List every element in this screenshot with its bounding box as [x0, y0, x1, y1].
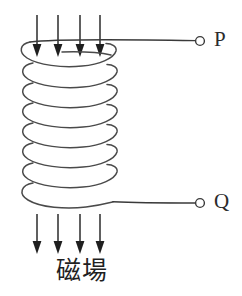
- field-arrow-down: [76, 15, 85, 57]
- terminal-q-circle-icon[interactable]: [196, 199, 205, 208]
- magnetic-field-label: 磁場: [56, 258, 108, 283]
- physics-figure: P Q 磁場: [0, 0, 242, 296]
- coil-turn: [23, 83, 117, 108]
- coil-field-diagram: [0, 0, 242, 296]
- coil-turn: [23, 123, 117, 148]
- coil-turn: [23, 143, 117, 168]
- bottom-field-arrows-group: [33, 214, 105, 254]
- lead-wire-top: [30, 40, 196, 42]
- coil-turn: [23, 103, 117, 128]
- solenoid-coil: [21, 42, 117, 208]
- terminal-q-label: Q: [214, 191, 229, 212]
- field-arrow-down: [96, 214, 105, 254]
- lead-wire-bottom: [113, 202, 196, 203]
- field-arrow-down: [33, 15, 42, 57]
- coil-turn-back-segment: [62, 52, 111, 55]
- terminal-p-label: P: [214, 29, 226, 50]
- coil-turn: [22, 183, 113, 208]
- field-arrow-down: [96, 15, 105, 57]
- top-field-arrows-group: [33, 15, 105, 57]
- field-arrow-down: [33, 214, 42, 254]
- field-arrow-down: [76, 214, 85, 254]
- terminal-p-circle-icon[interactable]: [196, 37, 205, 46]
- field-arrow-down: [54, 214, 63, 254]
- coil-turn: [23, 163, 117, 188]
- field-arrow-down: [54, 15, 63, 57]
